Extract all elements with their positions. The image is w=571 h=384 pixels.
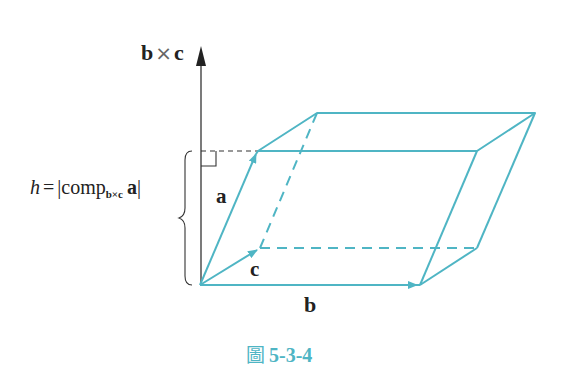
label-b: b xyxy=(141,40,153,65)
abs-close: | xyxy=(137,176,141,198)
right-angle-icon xyxy=(201,151,216,166)
comp-vector: a xyxy=(127,176,137,198)
height-projection xyxy=(201,151,258,166)
h-symbol: h xyxy=(30,176,40,198)
label-times: × xyxy=(155,41,172,65)
vector-c-label: c xyxy=(250,257,259,282)
equals-sign: = xyxy=(43,176,54,198)
caption-number: 5-3-4 xyxy=(269,344,312,366)
label-c: c xyxy=(174,40,184,65)
comp-text: comp xyxy=(61,176,105,198)
vector-b-label: b xyxy=(304,292,316,318)
cross-product-label: b×c xyxy=(141,40,184,66)
caption-prefix: 圖 xyxy=(246,344,265,366)
comp-subscript: b×c xyxy=(106,188,123,200)
height-formula: h=|compb×ca| xyxy=(30,176,141,200)
brace-icon xyxy=(179,151,192,285)
figure-caption: 圖5-3-4 xyxy=(246,340,312,367)
vector-a-label: a xyxy=(216,184,227,209)
vector-a xyxy=(200,154,256,285)
axis-arrowhead-icon xyxy=(196,46,206,66)
